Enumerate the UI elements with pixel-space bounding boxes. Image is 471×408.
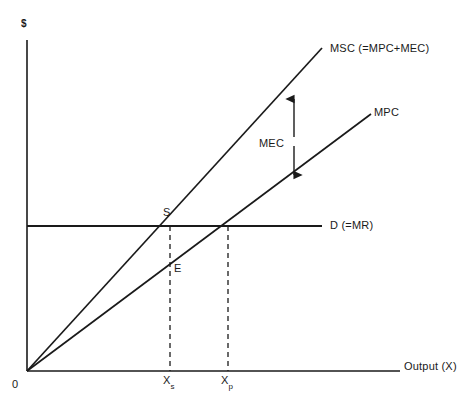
- point-e-label: E: [174, 262, 182, 274]
- mec-gap-label: MEC: [259, 137, 284, 149]
- x-axis-label: Output (X): [404, 360, 457, 372]
- x-private-tick-label: Xp: [221, 374, 233, 389]
- y-axis-label: $: [21, 18, 27, 29]
- x-private-subscript: p: [229, 382, 234, 391]
- x-social-main: X: [163, 374, 171, 386]
- x-private-main: X: [221, 374, 229, 386]
- msc-curve-label: MSC (=MPC+MEC): [330, 42, 429, 54]
- x-social-subscript: s: [171, 382, 175, 391]
- point-s-label: S: [163, 206, 171, 218]
- origin-label: 0: [12, 378, 18, 390]
- mpc-curve: [27, 114, 371, 371]
- demand-mr-label: D (=MR): [330, 219, 373, 231]
- x-social-tick-label: Xs: [163, 374, 175, 389]
- externality-diagram: $ 0 MSC (=MPC+MEC) MPC D (=MR) MEC S E X…: [0, 0, 471, 408]
- diagram-canvas: [0, 0, 471, 408]
- msc-curve: [27, 48, 322, 371]
- mpc-curve-label: MPC: [374, 106, 399, 118]
